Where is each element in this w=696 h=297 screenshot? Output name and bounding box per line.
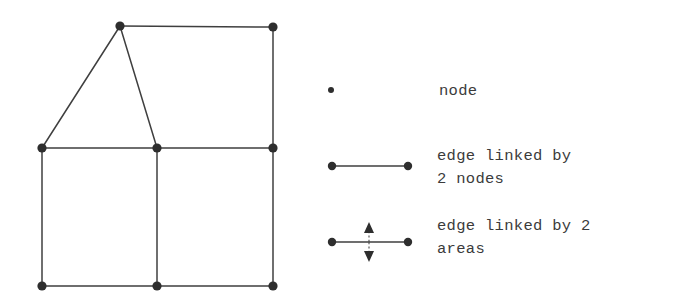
node-apex <box>115 21 124 30</box>
node-bottom-right <box>268 281 277 290</box>
graph-edge-group <box>42 26 273 286</box>
arrow-up-icon <box>364 222 374 233</box>
legend-edge-2-nodes-icon <box>328 162 412 170</box>
arrow-down-icon <box>364 251 374 262</box>
legend-edge-2-areas-icon <box>328 222 412 262</box>
node-mid-center <box>152 143 161 152</box>
figure-canvas: node edge linked by 2 nodes edge linked … <box>0 0 696 297</box>
node-top-right <box>268 22 277 31</box>
node-mid-right <box>268 143 277 152</box>
legend-symbol-group <box>328 87 412 262</box>
edge-apex-midcenter <box>120 26 157 148</box>
node-bottom-left <box>37 281 46 290</box>
legend-label-edge-2-areas: edge linked by 2 areas <box>437 215 591 261</box>
graph-and-legend-svg <box>0 0 696 297</box>
edge-apex-topright <box>120 26 273 27</box>
legend-label-edge-2-nodes: edge linked by 2 nodes <box>437 145 571 191</box>
legend-node-dot-icon <box>328 87 334 93</box>
node-mid-left <box>37 143 46 152</box>
edge-apex-midleft <box>42 26 120 148</box>
node-bottom-center <box>152 281 161 290</box>
legend-label-node: node <box>439 80 477 103</box>
